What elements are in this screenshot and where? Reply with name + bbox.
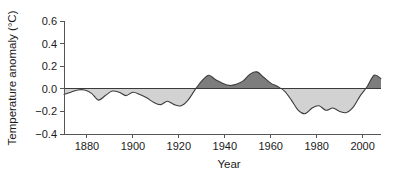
y-tick-label: 0.6 [42, 15, 57, 27]
y-tick-label: 0.0 [42, 83, 57, 95]
x-tick-label: 2000 [350, 140, 374, 152]
x-axis-tick-labels: 1880190019201940196019802000 [75, 140, 375, 152]
y-tick-label: −0.2 [35, 105, 57, 117]
x-tick-label: 1940 [213, 140, 237, 152]
x-tick-label: 1920 [167, 140, 191, 152]
temperature-anomaly-chart-figure: −0.4−0.20.00.20.40.6 1880190019201940196… [0, 0, 393, 177]
negative-anomaly-fill [64, 72, 381, 114]
y-tick-label: 0.2 [42, 60, 57, 72]
x-tick-label: 1880 [75, 140, 99, 152]
y-axis-ticks [60, 21, 64, 134]
x-axis-title: Year [217, 158, 240, 170]
x-tick-label: 1980 [304, 140, 328, 152]
x-axis-ticks [87, 134, 363, 138]
x-tick-label: 1960 [258, 140, 282, 152]
y-axis-title: Temperature anomaly (°C) [6, 10, 18, 145]
x-tick-label: 1900 [121, 140, 145, 152]
y-tick-label: −0.4 [35, 128, 57, 140]
y-tick-label: 0.4 [42, 38, 57, 50]
chart-plot-area: −0.4−0.20.00.20.40.6 1880190019201940196… [0, 0, 393, 177]
y-axis-tick-labels: −0.4−0.20.00.20.40.6 [35, 15, 57, 140]
